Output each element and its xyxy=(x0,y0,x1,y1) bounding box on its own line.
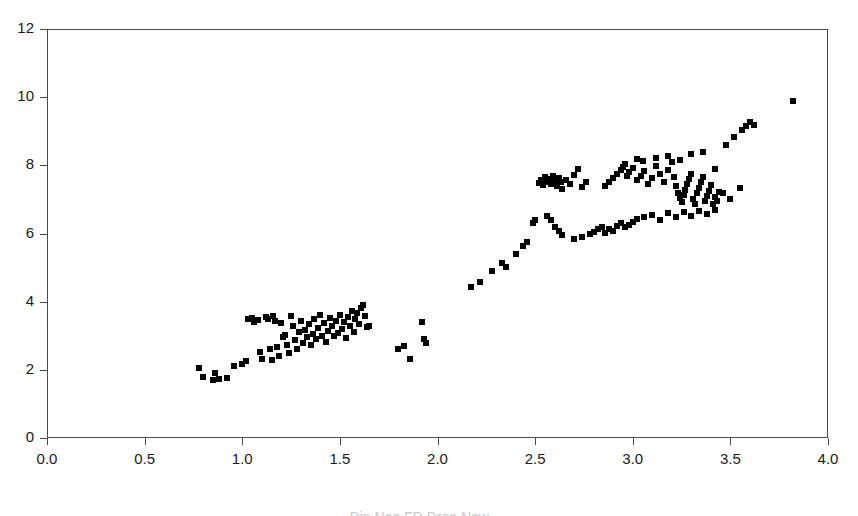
data-point xyxy=(401,343,407,349)
data-point xyxy=(345,314,351,320)
data-point xyxy=(700,149,706,155)
data-point xyxy=(653,163,659,169)
data-point xyxy=(696,185,702,191)
data-point xyxy=(657,171,663,177)
x-tick xyxy=(730,438,731,445)
data-point xyxy=(688,213,694,219)
data-point xyxy=(317,312,323,318)
y-tick xyxy=(40,165,47,166)
data-point xyxy=(321,320,327,326)
data-point xyxy=(665,167,671,173)
data-point xyxy=(468,284,474,290)
y-tick xyxy=(40,438,47,439)
data-point xyxy=(696,208,702,214)
data-point xyxy=(294,346,300,352)
data-point xyxy=(641,214,647,220)
data-point xyxy=(694,190,700,196)
data-point xyxy=(259,356,265,362)
data-point xyxy=(267,346,273,352)
data-point xyxy=(751,122,757,128)
y-tick xyxy=(40,29,47,30)
data-point xyxy=(681,192,687,198)
data-point xyxy=(284,342,290,348)
data-point xyxy=(714,198,720,204)
scatter-plot-figure: 024681012 0.00.51.01.52.02.53.03.54.0 Di… xyxy=(0,0,858,516)
data-point xyxy=(583,179,589,185)
x-tick xyxy=(535,438,536,445)
data-point xyxy=(681,209,687,215)
y-tick-label: 4 xyxy=(2,292,34,309)
data-point xyxy=(684,181,690,187)
data-point xyxy=(243,358,249,364)
data-point xyxy=(290,323,296,329)
y-tick-label: 10 xyxy=(2,87,34,104)
data-point xyxy=(337,312,343,318)
data-point xyxy=(673,183,679,189)
data-point xyxy=(524,239,530,245)
y-tick-label: 8 xyxy=(2,155,34,172)
data-point xyxy=(286,350,292,356)
y-tick xyxy=(40,370,47,371)
data-point xyxy=(640,158,646,164)
data-point xyxy=(323,339,329,345)
data-point xyxy=(704,211,710,217)
x-tick xyxy=(340,438,341,445)
data-point xyxy=(423,340,429,346)
data-point xyxy=(339,326,345,332)
data-point xyxy=(712,207,718,213)
data-point xyxy=(630,165,636,171)
data-point xyxy=(575,166,581,172)
x-tick xyxy=(438,438,439,445)
data-point xyxy=(343,335,349,341)
y-tick xyxy=(40,234,47,235)
data-point xyxy=(579,184,585,190)
data-point xyxy=(548,217,554,223)
data-point xyxy=(645,181,651,187)
data-point xyxy=(688,151,694,157)
data-point xyxy=(665,153,671,159)
x-tick xyxy=(633,438,634,445)
data-point xyxy=(737,185,743,191)
data-point xyxy=(567,181,573,187)
data-point xyxy=(559,186,565,192)
data-point xyxy=(649,212,655,218)
x-tick-label: 3.5 xyxy=(700,450,760,467)
data-point xyxy=(673,214,679,220)
data-point xyxy=(731,134,737,140)
data-point xyxy=(503,264,509,270)
x-tick-label: 2.0 xyxy=(408,450,468,467)
data-point xyxy=(298,318,304,324)
x-tick xyxy=(145,438,146,445)
x-tick-label: 2.5 xyxy=(505,450,565,467)
x-tick xyxy=(828,438,829,445)
data-point xyxy=(671,174,677,180)
figure-caption: Din Noo FD Droo New .... xyxy=(0,504,858,516)
data-point xyxy=(653,155,659,161)
x-tick-label: 0.5 xyxy=(115,450,175,467)
data-point xyxy=(513,251,519,257)
data-point xyxy=(282,332,288,338)
x-tick-label: 4.0 xyxy=(798,450,858,467)
data-point xyxy=(224,375,230,381)
data-point xyxy=(649,175,655,181)
data-point xyxy=(706,188,712,194)
data-point xyxy=(559,232,565,238)
data-point xyxy=(278,320,284,326)
data-point xyxy=(276,353,282,359)
x-tick-label: 3.0 xyxy=(603,450,663,467)
data-point xyxy=(571,236,577,242)
x-tick xyxy=(242,438,243,445)
data-point xyxy=(308,342,314,348)
data-point xyxy=(641,168,647,174)
data-point xyxy=(579,234,585,240)
data-point xyxy=(704,193,710,199)
x-tick xyxy=(47,438,48,445)
data-point xyxy=(212,370,218,376)
data-point xyxy=(269,357,275,363)
data-point xyxy=(723,142,729,148)
data-point xyxy=(274,344,280,350)
data-point xyxy=(419,319,425,325)
data-point xyxy=(677,157,683,163)
data-point xyxy=(692,201,698,207)
data-point xyxy=(333,318,339,324)
